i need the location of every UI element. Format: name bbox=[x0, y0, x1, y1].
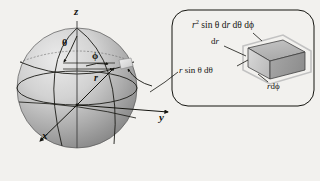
axis-label-y: y bbox=[159, 112, 164, 123]
inset-r-sin-theta-dtheta-label: r sin θ dθ bbox=[179, 66, 213, 75]
angle-label-theta: θ bbox=[62, 38, 67, 48]
inset-r-dphi-label: rdϕ bbox=[267, 82, 280, 91]
figure-canvas: z x y θ ϕ r r2 sin θ dr dθ dϕ dr r sin θ… bbox=[0, 0, 320, 181]
radius-label-r: r bbox=[94, 73, 98, 83]
inset-dr-label: dr bbox=[211, 37, 219, 46]
axis-label-z: z bbox=[74, 6, 78, 17]
inset-volume-formula: r2 sin θ dr dθ dϕ bbox=[192, 19, 254, 31]
axis-label-x: x bbox=[42, 130, 48, 141]
angle-label-phi: ϕ bbox=[92, 51, 98, 61]
